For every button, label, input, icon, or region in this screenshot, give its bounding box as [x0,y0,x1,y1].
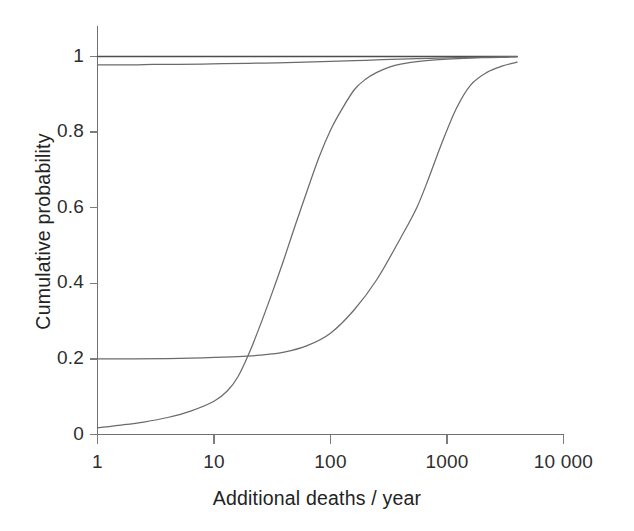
x-tick-label: 10 000 [504,451,624,473]
curves-group [98,57,518,428]
series-curve-3 [98,62,518,359]
chart-figure: 00.20.40.60.81 110100100010 000 Addition… [0,0,634,531]
axes-group [90,26,564,444]
y-tick-label: 0 [12,423,84,445]
x-tick-label: 1000 [387,451,507,473]
y-axis-title: Cumulative probability [32,112,55,352]
y-tick-label: 1 [12,45,84,67]
x-tick-label: 1 [38,451,158,473]
x-tick-label: 100 [271,451,391,473]
x-tick-label: 10 [154,451,274,473]
x-axis-title: Additional deaths / year [0,487,634,510]
series-curve-1 [98,57,518,65]
